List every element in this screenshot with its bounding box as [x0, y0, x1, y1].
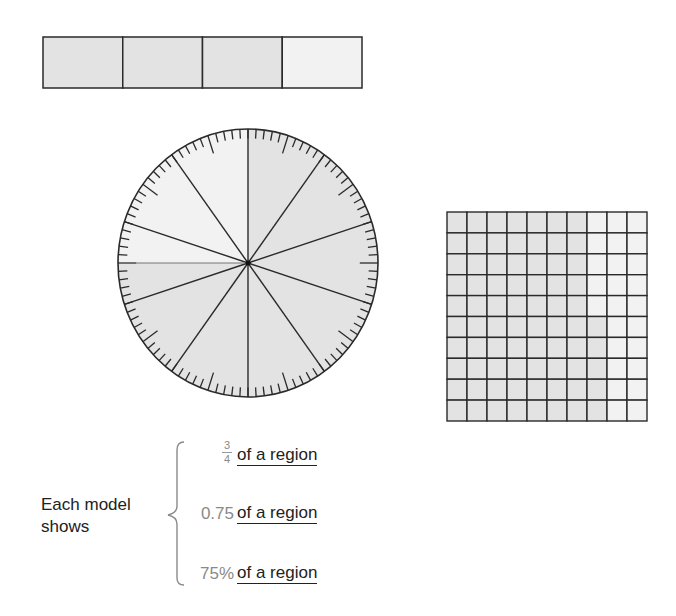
grid-cell: [567, 379, 587, 400]
grid-cell: [447, 379, 467, 400]
grid-cell: [527, 254, 547, 275]
decimal-value: 0.75: [201, 504, 234, 524]
grid-cell: [587, 296, 607, 317]
grid-cell: [587, 317, 607, 338]
grid-cell: [567, 337, 587, 358]
grid-cell: [507, 212, 527, 233]
grid-cell: [627, 358, 647, 379]
grid-cell: [627, 254, 647, 275]
grid-cell: [547, 275, 567, 296]
grid-cell: [507, 254, 527, 275]
bar-part: [203, 37, 283, 88]
grid-cell: [607, 254, 627, 275]
grid-cell: [487, 337, 507, 358]
grid-cell: [487, 233, 507, 254]
grid-cell: [447, 254, 467, 275]
curly-brace: [168, 442, 184, 585]
circle-model-tenths: [118, 129, 378, 397]
grid-cell: [627, 379, 647, 400]
grid-cell: [567, 254, 587, 275]
tick: [118, 271, 127, 272]
grid-cell: [627, 317, 647, 338]
grid-cell: [467, 400, 487, 421]
grid-cell: [467, 212, 487, 233]
grid-cell: [467, 254, 487, 275]
tick: [256, 387, 257, 396]
grid-cell: [547, 317, 567, 338]
tick: [118, 255, 127, 256]
grid-cell: [627, 275, 647, 296]
grid-cell: [487, 275, 507, 296]
grid-cell: [527, 379, 547, 400]
region-label: of a region: [237, 564, 317, 584]
grid-cell: [567, 296, 587, 317]
decimal-row: 0.75 of a region: [186, 504, 346, 528]
grid-cell: [587, 254, 607, 275]
grid-cell: [587, 275, 607, 296]
grid-cell: [507, 233, 527, 254]
grid-cell: [507, 317, 527, 338]
grid-cell: [507, 337, 527, 358]
grid-cell: [627, 400, 647, 421]
grid-cell: [547, 212, 567, 233]
grid-cell: [527, 296, 547, 317]
grid-cell: [547, 233, 567, 254]
grid-cell: [447, 317, 467, 338]
grid-cell: [567, 233, 587, 254]
tick: [240, 387, 241, 396]
grid-cell: [447, 337, 467, 358]
grid-cell: [507, 400, 527, 421]
grid-cell: [567, 275, 587, 296]
grid-cell: [487, 400, 507, 421]
tick: [369, 271, 378, 272]
grid-cell: [447, 400, 467, 421]
tick: [240, 129, 241, 138]
percent-row: 75% of a region: [186, 564, 346, 588]
grid-cell: [607, 233, 627, 254]
grid-cell: [467, 317, 487, 338]
grid-cell: [527, 337, 547, 358]
grid-cell: [447, 296, 467, 317]
grid-cell: [467, 337, 487, 358]
grid-cell: [627, 233, 647, 254]
grid-cell: [487, 212, 507, 233]
grid-cell: [447, 275, 467, 296]
grid-cell: [487, 254, 507, 275]
grid-cell: [447, 233, 467, 254]
grid-cell: [587, 337, 607, 358]
grid-cell: [547, 337, 567, 358]
grid-cell: [627, 296, 647, 317]
grid-cell: [587, 233, 607, 254]
grid-cell: [607, 296, 627, 317]
grid-cell: [587, 358, 607, 379]
grid-cell: [527, 400, 547, 421]
grid-cell: [587, 400, 607, 421]
grid-cell: [587, 212, 607, 233]
grid-cell: [607, 275, 627, 296]
grid-cell: [527, 275, 547, 296]
grid-cell: [607, 212, 627, 233]
grid-cell: [607, 400, 627, 421]
grid-cell: [467, 296, 487, 317]
grid-cell: [487, 358, 507, 379]
region-label: of a region: [237, 446, 317, 466]
grid-cell: [507, 358, 527, 379]
bar-part: [282, 37, 362, 88]
grid-cell: [507, 275, 527, 296]
grid-cell: [527, 233, 547, 254]
fraction-value: 3 4: [222, 440, 232, 465]
bar-part: [123, 37, 203, 88]
bar-part: [43, 37, 123, 88]
grid-cell: [527, 317, 547, 338]
grid-cell: [567, 400, 587, 421]
grid-cell: [547, 379, 567, 400]
grid-cell: [607, 358, 627, 379]
fraction-row: 3 4 of a region: [186, 446, 346, 470]
grid-cell: [467, 275, 487, 296]
grid-cell: [627, 212, 647, 233]
grid-cell: [467, 233, 487, 254]
grid-cell: [587, 379, 607, 400]
grid-cell: [507, 379, 527, 400]
caption-line-1: Each model: [41, 494, 131, 516]
bar-model-fourths: [43, 37, 362, 88]
